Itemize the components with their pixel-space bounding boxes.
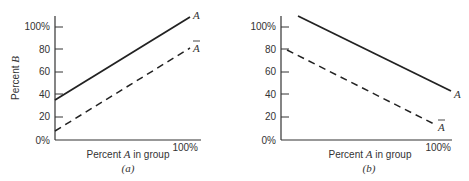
series-abar-dashed-line [287,50,436,125]
y-tick-label: 100% [24,21,50,32]
series-abar-label: A [437,120,445,133]
x-tick-label-100: 100% [425,142,451,153]
y-tick-label: 0% [36,135,51,146]
panel-caption-a: (a) [122,162,135,175]
series-a-solid-line [298,16,451,91]
series-a-solid-line [55,17,190,100]
x-axis-label: Percent A in group [329,148,412,160]
y-tick-label: 100% [250,21,276,32]
figure: 100% 80 60 40 20 0% Percent B A A 100% P… [0,0,469,181]
y-tick-label: 20 [265,111,277,122]
series-abar-dashed-line [55,48,190,131]
y-tick-label: 0% [262,135,277,146]
y-ticks [55,27,63,117]
panel-caption-b: (b) [363,162,376,175]
series-abar-label: A [192,41,200,54]
y-tick-label: 80 [265,44,277,55]
y-tick-label: 60 [265,66,277,77]
x-tick-label-100: 100% [172,142,198,153]
y-tick-label: 20 [39,111,51,122]
y-axis-label: Percent B [9,56,21,100]
svg-text:A: A [437,121,445,133]
x-axis-label: Percent A in group [87,148,170,160]
series-a-label: A [192,9,200,21]
svg-text:A: A [192,42,200,54]
series-a-label: A [453,88,461,100]
y-tick-label: 60 [39,66,51,77]
panel-b: 100% 80 60 40 20 0% A A 100% Percent A i… [250,16,461,175]
panel-a: 100% 80 60 40 20 0% Percent B A A 100% P… [9,9,201,175]
y-tick-label: 40 [39,89,51,100]
y-tick-label: 80 [39,44,51,55]
y-ticks [281,27,289,117]
y-tick-label: 40 [265,89,277,100]
